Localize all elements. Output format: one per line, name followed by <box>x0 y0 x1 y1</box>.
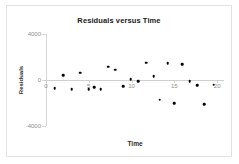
data-point <box>99 88 102 91</box>
data-point <box>153 75 156 78</box>
y-axis-title: Residuals <box>18 66 24 94</box>
data-point <box>203 103 206 106</box>
data-point <box>53 87 56 90</box>
data-point <box>173 102 176 105</box>
y-tick-mark <box>42 126 46 127</box>
data-point <box>181 63 184 66</box>
data-point <box>166 62 169 65</box>
data-point <box>145 61 148 64</box>
data-point <box>212 83 215 86</box>
y-tick-label: 4000 <box>28 31 41 37</box>
y-tick-mark <box>42 34 46 35</box>
data-point <box>79 71 82 74</box>
y-tick-label: 0 <box>38 77 41 83</box>
data-point <box>129 78 132 81</box>
data-point <box>122 85 125 88</box>
chart-title: Residuals versus Time <box>7 16 231 25</box>
x-axis-title: Time <box>46 140 224 147</box>
zero-reference-line <box>46 80 224 81</box>
plot-area: 40000-4000 05101520 <box>46 34 224 126</box>
data-point <box>188 80 191 83</box>
data-point <box>107 65 110 68</box>
x-tick-label: 10 <box>128 83 135 89</box>
data-point <box>114 69 117 72</box>
x-tick-label: 0 <box>44 83 47 89</box>
y-tick-label: -4000 <box>26 123 41 129</box>
data-point <box>196 84 199 87</box>
data-point <box>93 86 96 89</box>
data-point <box>70 88 73 91</box>
data-point <box>137 80 140 83</box>
data-point <box>87 88 90 91</box>
data-point <box>159 98 162 101</box>
x-tick-label: 15 <box>171 83 178 89</box>
data-point <box>62 74 65 77</box>
chart-frame: Residuals versus Time Residuals 40000-40… <box>6 5 232 157</box>
